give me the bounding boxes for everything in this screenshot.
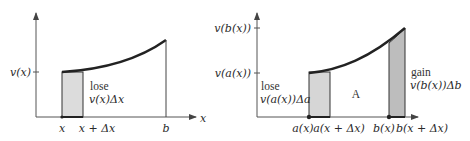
lose-strip bbox=[62, 72, 83, 117]
y-tick-label-mid: v(a(x)) bbox=[215, 67, 251, 80]
figure-canvas: v(x) x x x + Δx b lose v(x)Δx v(b(x)) v(… bbox=[0, 0, 470, 141]
x-tick-b: b bbox=[162, 122, 169, 135]
left-panel: v(x) x x x + Δx b lose v(x)Δx bbox=[10, 13, 207, 135]
x-tick-a-plus: a(x + Δx) bbox=[313, 122, 365, 135]
lose-strip bbox=[309, 72, 330, 117]
curve bbox=[62, 40, 166, 72]
x-tick-x-plus-dx: x + Δx bbox=[79, 122, 116, 135]
lose-label: lose bbox=[90, 80, 109, 92]
x-axis-label: x bbox=[200, 112, 207, 125]
gain-label: gain bbox=[411, 66, 431, 79]
lose-amount: v(a(x))Δa bbox=[260, 93, 311, 106]
gain-strip bbox=[389, 28, 405, 117]
gain-amount: v(b(x))Δb bbox=[410, 79, 462, 92]
x-tick-x: x bbox=[59, 122, 66, 135]
right-panel: v(b(x)) v(a(x)) a(x) a(x + Δx) b(x) b(x … bbox=[214, 13, 461, 135]
y-tick-label-top: v(b(x)) bbox=[214, 22, 251, 35]
lose-amount: v(x)Δx bbox=[89, 93, 125, 106]
region-a-label: A bbox=[352, 88, 361, 100]
x-tick-b: b(x) bbox=[373, 122, 395, 135]
x-tick-b-plus: b(x + Δx) bbox=[396, 122, 448, 135]
lose-label: lose bbox=[261, 80, 280, 92]
x-tick-a: a(x) bbox=[292, 122, 313, 135]
y-tick-label: v(x) bbox=[10, 66, 31, 79]
